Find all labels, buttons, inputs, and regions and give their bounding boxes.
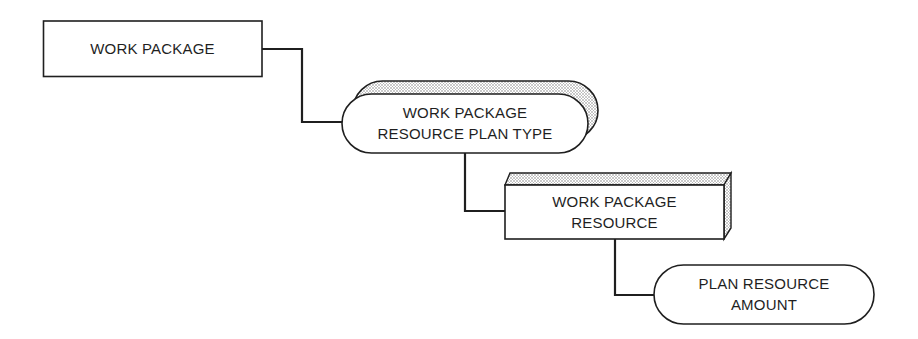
label-line: WORK PACKAGE xyxy=(43,38,262,59)
node-label-plan-resource-amount: PLAN RESOURCE AMOUNT xyxy=(654,273,874,315)
label-line: RESOURCE PLAN TYPE xyxy=(342,123,588,144)
label-line: RESOURCE xyxy=(505,212,724,233)
node-label-work-package-resource-plan-type: WORK PACKAGE RESOURCE PLAN TYPE xyxy=(342,102,588,144)
box-top-bevel xyxy=(505,173,731,185)
connector-work-package-to-plan-type xyxy=(262,49,343,122)
connector-resource-to-amount xyxy=(615,239,655,295)
box-right-bevel xyxy=(724,173,731,239)
label-line: WORK PACKAGE xyxy=(342,102,588,123)
node-label-work-package: WORK PACKAGE xyxy=(43,38,262,59)
label-line: WORK PACKAGE xyxy=(505,191,724,212)
label-line: AMOUNT xyxy=(654,294,874,315)
label-line: PLAN RESOURCE xyxy=(654,273,874,294)
connector-plan-type-to-resource xyxy=(465,153,506,211)
node-label-work-package-resource: WORK PACKAGE RESOURCE xyxy=(505,191,724,233)
